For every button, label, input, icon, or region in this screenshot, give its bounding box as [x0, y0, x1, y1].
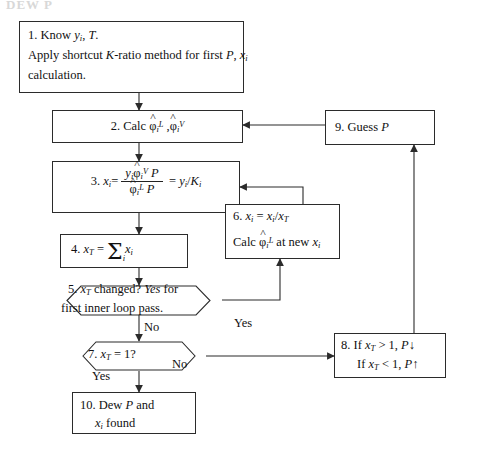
node-1-know-inputs: 1. Know yi, T. Apply shortcut K-ratio me… [19, 21, 244, 93]
node-7-label: 7. xT = 1? [88, 347, 136, 363]
node-8-line-2: If xT < 1, P↑ [357, 357, 418, 372]
node-6-line-2: Calc φiL at new xi [233, 235, 320, 250]
node-10-result: 10. Dew P and xi found [72, 392, 196, 434]
edge-label-5-no: No [144, 320, 159, 335]
node-5-line-2: first inner loop pass. [61, 301, 163, 316]
node-4-sum-x: 4. xT = Σixi [60, 234, 188, 268]
edge-label-5-yes: Yes [234, 316, 252, 331]
flowchart-canvas: DEW P [0, 0, 477, 452]
node-1-line-3: calculation. [28, 68, 86, 83]
edge-label-7-yes: Yes [92, 369, 110, 384]
node-3-label: 3. xi= yiφiV P φiL P = yi/Ki [53, 166, 239, 198]
node-6-line-1: 6. xi = xi/xT [233, 209, 288, 224]
node-2-label: 2. Calc φiL ,φiV [53, 119, 242, 134]
node-1-line-1: 1. Know yi, T. [28, 28, 98, 43]
edge-5-to-6 [222, 259, 280, 300]
node-4-label: 4. xT = Σixi [71, 242, 133, 263]
node-9-guess-p: 9. Guess P [325, 110, 435, 145]
node-10-line-1: 10. Dew P and [80, 398, 154, 413]
node-3-calc-liquid-composition: 3. xi= yiφiV P φiL P = yi/Ki [52, 161, 240, 213]
node-5-line-1: 5. xT changed? Yes for [68, 282, 178, 298]
node-10-line-2: xi found [95, 416, 135, 431]
node-2-calc-fugacity-coefficients: 2. Calc φiL ,φiV [52, 110, 243, 143]
node-6-normalize-and-recalc: 6. xi = xi/xT Calc φiL at new xi [225, 204, 340, 259]
node-8-line-1: 8. If xT > 1, P↓ [341, 338, 415, 353]
node-9-label: 9. Guess P [335, 120, 389, 135]
edge-6-to-3 [240, 187, 303, 204]
edge-label-7-no: No [172, 357, 187, 372]
node-8-adjust-pressure: 8. If xT > 1, P↓ If xT < 1, P↑ [334, 333, 446, 378]
node-1-line-2: Apply shortcut K-ratio method for first … [28, 48, 248, 63]
